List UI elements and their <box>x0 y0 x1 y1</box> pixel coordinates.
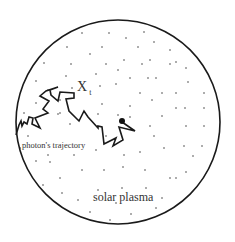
plasma-particle <box>183 145 185 147</box>
plasma-particle <box>89 53 91 55</box>
plasma-particle <box>130 213 132 215</box>
plasma-particle <box>203 107 205 109</box>
plasma-particle <box>175 92 177 94</box>
plasma-particle <box>203 125 205 127</box>
plasma-particle <box>137 46 139 48</box>
position-label: Xt <box>77 79 92 97</box>
plasma-particle <box>169 63 171 65</box>
plasma-particle <box>153 41 155 43</box>
plasma-particle <box>105 63 107 65</box>
plasma-particle <box>175 61 177 63</box>
plasma-particle <box>23 112 25 114</box>
plasma-particle <box>95 149 97 151</box>
plasma-particle <box>57 113 59 115</box>
photon-origin-dot <box>119 118 125 124</box>
plasma-particle <box>59 99 61 101</box>
plasma-particle <box>115 83 117 85</box>
plasma-particle <box>42 184 44 186</box>
plasma-particle <box>201 145 203 147</box>
plasma-particle <box>99 85 101 87</box>
plasma-particle <box>70 63 72 65</box>
plasma-particle <box>185 67 187 69</box>
plasma-particle <box>123 154 125 156</box>
plasma-particle <box>43 62 45 64</box>
plasma-particle <box>81 32 83 34</box>
plasma-particle <box>117 69 119 71</box>
plasma-particle <box>149 125 151 127</box>
plasma-particle <box>151 99 153 101</box>
plasma-particle <box>47 154 49 156</box>
plasma-particle <box>161 197 163 199</box>
photon-diffusion-diagram: Xt photon's trajectory solar plasma <box>0 0 235 242</box>
plasma-particle <box>73 154 75 156</box>
medium-label: solar plasma <box>93 190 154 204</box>
plasma-particle <box>35 80 37 82</box>
plasma-particle <box>95 73 97 75</box>
plasma-particle <box>155 207 157 209</box>
plasma-particle <box>61 192 63 194</box>
plasma-particle <box>59 177 61 179</box>
plasma-particle <box>185 125 187 127</box>
plasma-particle <box>143 31 145 33</box>
plasma-particle <box>163 147 165 149</box>
plasma-particle <box>103 169 105 171</box>
plasma-particle <box>89 211 91 213</box>
plasma-particle <box>203 92 205 94</box>
plasma-particle <box>145 187 147 189</box>
plasma-particle <box>185 171 187 173</box>
plasma-particle <box>101 103 103 105</box>
plasma-particle <box>129 77 131 79</box>
plasma-particle <box>153 135 155 137</box>
plasma-particle <box>184 107 186 109</box>
plasma-particle <box>192 155 194 157</box>
plasma-particle <box>123 59 125 61</box>
plasma-particle <box>121 187 123 189</box>
plasma-particle <box>81 169 83 171</box>
plasma-particle <box>101 46 103 48</box>
plasma-particle <box>161 115 163 117</box>
plasma-particle <box>169 177 171 179</box>
plasma-particle <box>59 112 61 114</box>
plasma-particle <box>71 87 73 89</box>
plasma-particle <box>149 59 151 61</box>
plasma-particle <box>187 81 189 83</box>
trajectory-label: photon's trajectory <box>22 140 86 150</box>
plasma-particle <box>161 92 163 94</box>
plasma-particle <box>35 102 37 104</box>
plasma-particle <box>35 160 37 162</box>
plasma-particle <box>49 161 51 163</box>
plasma-particle <box>65 75 67 77</box>
plasma-particle <box>129 116 131 118</box>
photon-trajectory-path <box>16 87 135 146</box>
plasma-particle <box>105 135 107 137</box>
plasma-particle <box>109 219 111 221</box>
plasma-particle <box>139 92 141 94</box>
plasma-particle <box>69 123 71 125</box>
plasma-particle <box>125 37 127 39</box>
plasma-particle <box>141 63 143 65</box>
plasma-particle <box>175 107 177 109</box>
plasma-particle <box>66 46 68 48</box>
plasma-particle <box>169 49 171 51</box>
plasma-particle <box>155 77 157 79</box>
plasma-particle <box>108 32 110 34</box>
plasma-particle <box>97 113 99 115</box>
plasma-particle <box>117 114 119 116</box>
plasma-particle <box>27 135 29 137</box>
plasma-particle <box>175 177 177 179</box>
plasma-particle <box>129 105 131 107</box>
plasma-particle <box>144 169 146 171</box>
plasma-particle <box>122 166 124 168</box>
plasma-particle <box>139 151 141 153</box>
plasma-particle <box>77 199 79 201</box>
plasma-particle <box>147 77 149 79</box>
